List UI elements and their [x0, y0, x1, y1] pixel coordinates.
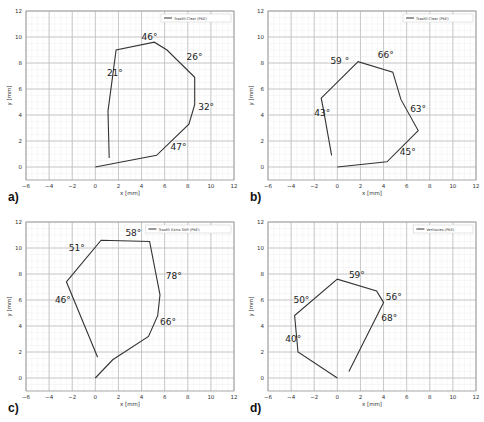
svg-text:x [mm]: x [mm]: [362, 190, 382, 196]
svg-text:y [mm]: y [mm]: [6, 296, 13, 316]
svg-text:4: 4: [140, 394, 144, 400]
svg-text:47°: 47°: [170, 142, 186, 152]
svg-text:Trasfill Extra Stiff (PKE): Trasfill Extra Stiff (PKE): [157, 228, 200, 232]
svg-text:−2: −2: [310, 183, 318, 189]
svg-text:10: 10: [15, 34, 22, 40]
svg-text:66°: 66°: [160, 317, 176, 327]
svg-text:66°: 66°: [378, 50, 394, 60]
svg-text:−4: −4: [45, 183, 54, 189]
svg-text:12: 12: [257, 219, 264, 225]
svg-text:59 °: 59 °: [330, 56, 349, 66]
svg-text:y [mm]: y [mm]: [248, 296, 255, 316]
svg-text:6: 6: [19, 86, 23, 92]
svg-text:−6: −6: [264, 394, 273, 400]
panel-label-b: b): [250, 190, 261, 204]
svg-text:0: 0: [19, 375, 23, 381]
panel-d: −6−4−2024681012024681012x [mm]y [mm]59°5…: [242, 211, 484, 422]
chart-b: −6−4−2024681012024681012x [mm]y [mm]59 °…: [242, 0, 484, 211]
svg-text:Trasfill Clear (PKE): Trasfill Clear (PKE): [415, 17, 449, 21]
svg-text:−6: −6: [264, 183, 273, 189]
svg-text:Trasfill Clear (PKE): Trasfill Clear (PKE): [173, 17, 207, 21]
svg-text:68°: 68°: [381, 313, 397, 323]
svg-text:78°: 78°: [166, 271, 182, 281]
svg-text:10: 10: [15, 245, 22, 251]
svg-text:2: 2: [117, 183, 121, 189]
panel-label-d: d): [250, 401, 261, 415]
svg-text:0: 0: [94, 394, 98, 400]
svg-text:−6: −6: [22, 394, 31, 400]
svg-text:10: 10: [207, 394, 214, 400]
panel-c: −6−4−2024681012024681012x [mm]y [mm]51°5…: [0, 211, 242, 422]
svg-text:10: 10: [257, 245, 264, 251]
panel-label-c: c): [8, 401, 19, 415]
svg-text:6: 6: [163, 394, 167, 400]
svg-text:4: 4: [261, 323, 265, 329]
svg-text:12: 12: [231, 394, 238, 400]
svg-text:2: 2: [359, 394, 363, 400]
svg-text:6: 6: [261, 297, 265, 303]
svg-text:12: 12: [231, 183, 238, 189]
svg-text:4: 4: [19, 323, 23, 329]
svg-text:10: 10: [449, 183, 456, 189]
svg-text:4: 4: [261, 112, 265, 118]
panel-label-a: a): [8, 190, 19, 204]
svg-text:26°: 26°: [187, 52, 203, 62]
svg-text:8: 8: [186, 183, 190, 189]
svg-text:0: 0: [336, 394, 340, 400]
svg-text:2: 2: [261, 138, 265, 144]
svg-text:8: 8: [428, 183, 432, 189]
svg-text:12: 12: [473, 394, 480, 400]
chart-a: −6−4−2024681012024681012x [mm]y [mm]46°2…: [0, 0, 242, 211]
svg-text:2: 2: [19, 349, 23, 355]
svg-text:x [mm]: x [mm]: [120, 190, 140, 196]
svg-text:10: 10: [449, 394, 456, 400]
svg-text:−2: −2: [68, 183, 76, 189]
svg-text:50°: 50°: [293, 295, 309, 305]
panel-b: −6−4−2024681012024681012x [mm]y [mm]59 °…: [242, 0, 484, 211]
svg-text:58°: 58°: [125, 228, 141, 238]
svg-text:8: 8: [261, 271, 265, 277]
svg-text:32°: 32°: [198, 102, 214, 112]
svg-text:12: 12: [473, 183, 480, 189]
svg-text:4: 4: [19, 112, 23, 118]
svg-text:Vertiscies (PKE): Vertiscies (PKE): [426, 228, 455, 232]
svg-text:8: 8: [428, 394, 432, 400]
svg-text:10: 10: [257, 34, 264, 40]
svg-text:−2: −2: [310, 394, 318, 400]
svg-text:x [mm]: x [mm]: [120, 401, 140, 407]
svg-text:−2: −2: [68, 394, 76, 400]
svg-text:4: 4: [140, 183, 144, 189]
svg-text:6: 6: [19, 297, 23, 303]
svg-text:8: 8: [261, 60, 265, 66]
svg-text:y [mm]: y [mm]: [6, 85, 13, 105]
chart-c: −6−4−2024681012024681012x [mm]y [mm]51°5…: [0, 211, 242, 422]
svg-text:45°: 45°: [400, 147, 416, 157]
svg-text:12: 12: [15, 219, 22, 225]
svg-text:40°: 40°: [285, 334, 301, 344]
svg-text:12: 12: [257, 8, 264, 14]
svg-text:2: 2: [359, 183, 363, 189]
panel-a: −6−4−2024681012024681012x [mm]y [mm]46°2…: [0, 0, 242, 211]
svg-text:2: 2: [261, 349, 265, 355]
svg-text:43°: 43°: [314, 108, 330, 118]
svg-text:63°: 63°: [410, 104, 426, 114]
svg-text:0: 0: [19, 164, 23, 170]
svg-text:0: 0: [261, 375, 265, 381]
svg-text:x [mm]: x [mm]: [362, 401, 382, 407]
svg-text:−6: −6: [22, 183, 31, 189]
svg-text:56°: 56°: [386, 292, 402, 302]
svg-text:6: 6: [261, 86, 265, 92]
svg-text:12: 12: [15, 8, 22, 14]
svg-text:46°: 46°: [142, 32, 158, 42]
svg-text:2: 2: [19, 138, 23, 144]
svg-text:2: 2: [117, 394, 121, 400]
svg-text:59°: 59°: [349, 270, 365, 280]
svg-text:−4: −4: [45, 394, 54, 400]
svg-text:−4: −4: [287, 394, 296, 400]
chart-d: −6−4−2024681012024681012x [mm]y [mm]59°5…: [242, 211, 484, 422]
svg-text:8: 8: [19, 60, 23, 66]
svg-text:46°: 46°: [55, 295, 71, 305]
svg-text:51°: 51°: [69, 243, 85, 253]
svg-text:−4: −4: [287, 183, 296, 189]
svg-text:4: 4: [382, 183, 386, 189]
